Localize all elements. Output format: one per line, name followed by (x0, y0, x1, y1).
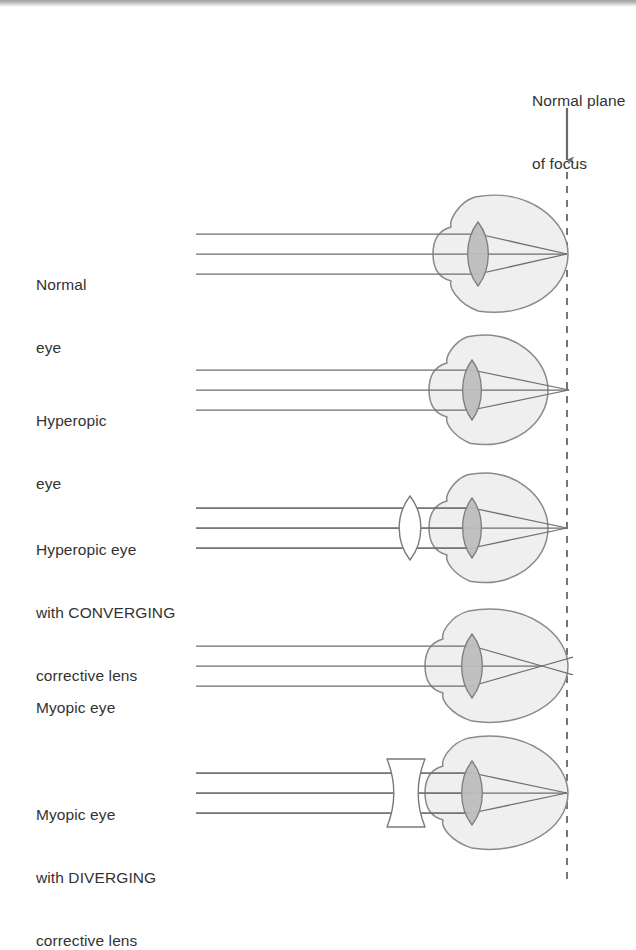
plane-label-line-1: Normal plane (532, 90, 625, 111)
row-label-line: Normal (36, 274, 87, 295)
row-label-line: corrective lens (36, 930, 156, 950)
plane-label-line-2: of focus (532, 153, 625, 174)
row-label-myopic-eye: Myopic eye (36, 655, 115, 760)
normal-plane-of-focus-label: Normal plane of focus (532, 48, 625, 216)
row-label-line: Myopic eye (36, 697, 115, 718)
row-label-line: with CONVERGING (36, 602, 175, 623)
row-label-line: eye (36, 473, 107, 494)
row-label-myopic-eye-corrected: Myopic eye with DIVERGING corrective len… (36, 762, 156, 950)
eye-row-normal-eye (196, 195, 568, 312)
row-label-line: Myopic eye (36, 804, 156, 825)
eye-row-hyperopic-eye (196, 335, 569, 444)
row-label-line: Hyperopic eye (36, 539, 175, 560)
row-label-line: with DIVERGING (36, 867, 156, 888)
corrective-lens-converging (399, 496, 421, 560)
eye-row-hyperopic-eye-corrected (196, 473, 567, 582)
row-label-line: Hyperopic (36, 410, 107, 431)
row-label-line: eye (36, 337, 87, 358)
eye-row-myopic-eye-corrected (196, 736, 568, 849)
eye-row-myopic-eye (196, 609, 573, 722)
